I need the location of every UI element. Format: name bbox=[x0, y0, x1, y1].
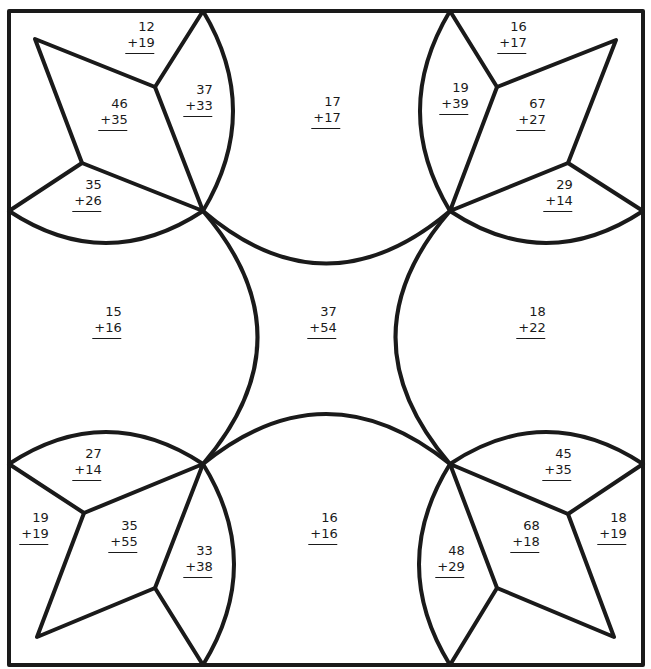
br-line-bottom bbox=[450, 588, 497, 665]
addend-2: +55 bbox=[110, 534, 137, 550]
addend-2: +54 bbox=[309, 320, 336, 336]
addend-1: 27 bbox=[74, 446, 101, 462]
answer-line bbox=[542, 480, 571, 481]
tl-line-left bbox=[9, 163, 82, 211]
problem-bl-petal-right: 33 +38 bbox=[185, 543, 212, 578]
problem-tl-petal-bottom: 35 +26 bbox=[74, 177, 101, 212]
center-arc-right bbox=[396, 211, 451, 464]
answer-line bbox=[543, 211, 572, 212]
addend-1: 16 bbox=[499, 19, 526, 35]
center-arc-top bbox=[203, 211, 450, 264]
addend-1: 33 bbox=[185, 543, 212, 559]
problem-top-center: 17 +17 bbox=[313, 94, 340, 129]
bl-line-left bbox=[9, 464, 84, 513]
addend-1: 46 bbox=[100, 96, 127, 112]
problem-bl-kite: 35 +55 bbox=[110, 518, 137, 553]
addend-2: +18 bbox=[512, 534, 539, 550]
answer-line bbox=[125, 53, 154, 54]
addend-2: +16 bbox=[310, 526, 337, 542]
answer-line bbox=[307, 338, 336, 339]
addend-1: 37 bbox=[309, 304, 336, 320]
addend-2: +35 bbox=[544, 462, 571, 478]
tr-line-right bbox=[568, 163, 643, 211]
addend-2: +19 bbox=[127, 35, 154, 51]
answer-line bbox=[98, 130, 127, 131]
tl-line-top bbox=[155, 11, 203, 87]
answer-line bbox=[108, 552, 137, 553]
answer-line bbox=[435, 577, 464, 578]
answer-line bbox=[72, 211, 101, 212]
tl-petal-bottom-arc bbox=[9, 211, 203, 243]
addend-2: +17 bbox=[499, 35, 526, 51]
addend-2: +39 bbox=[441, 96, 468, 112]
answer-line bbox=[308, 544, 337, 545]
problem-br-petal-left: 48 +29 bbox=[437, 543, 464, 578]
center-arc-bottom bbox=[203, 414, 450, 464]
problem-bl-petal-top: 27 +14 bbox=[74, 446, 101, 481]
problem-tr-top: 16 +17 bbox=[499, 19, 526, 54]
addend-2: +38 bbox=[185, 559, 212, 575]
answer-line bbox=[439, 114, 468, 115]
addend-1: 29 bbox=[545, 177, 572, 193]
answer-line bbox=[72, 480, 101, 481]
addend-2: +14 bbox=[545, 193, 572, 209]
addend-1: 16 bbox=[310, 510, 337, 526]
answer-line bbox=[497, 53, 526, 54]
addend-2: +33 bbox=[185, 98, 212, 114]
problem-bl-side: 19 +19 bbox=[21, 510, 48, 545]
problem-tr-kite: 67 +27 bbox=[518, 96, 545, 131]
center-arc-left bbox=[203, 211, 258, 464]
addend-1: 19 bbox=[441, 80, 468, 96]
problem-tl-petal-right: 37 +33 bbox=[185, 82, 212, 117]
addend-2: +14 bbox=[74, 462, 101, 478]
addend-2: +26 bbox=[74, 193, 101, 209]
problem-right-center: 18 +22 bbox=[518, 304, 545, 339]
addend-1: 68 bbox=[512, 518, 539, 534]
problem-tr-petal-left: 19 +39 bbox=[441, 80, 468, 115]
addend-1: 19 bbox=[21, 510, 48, 526]
problem-tl-top: 12 +19 bbox=[127, 19, 154, 54]
addend-2: +17 bbox=[313, 110, 340, 126]
addend-1: 35 bbox=[74, 177, 101, 193]
problem-center: 37 +54 bbox=[309, 304, 336, 339]
bl-line-bottom bbox=[155, 588, 203, 665]
problem-tl-kite: 46 +35 bbox=[100, 96, 127, 131]
addend-1: 37 bbox=[185, 82, 212, 98]
worksheet: 12 +19 46 +35 37 +33 35 +26 17 +17 19 +3… bbox=[0, 0, 651, 669]
addend-2: +16 bbox=[94, 320, 121, 336]
answer-line bbox=[597, 544, 626, 545]
addend-2: +19 bbox=[599, 526, 626, 542]
problem-br-side: 18 +19 bbox=[599, 510, 626, 545]
addend-1: 12 bbox=[127, 19, 154, 35]
br-line-right bbox=[568, 464, 643, 514]
addend-2: +22 bbox=[518, 320, 545, 336]
addend-1: 17 bbox=[313, 94, 340, 110]
tr-line-top bbox=[450, 11, 497, 87]
problem-tr-petal-bottom: 29 +14 bbox=[545, 177, 572, 212]
answer-line bbox=[183, 577, 212, 578]
addend-2: +19 bbox=[21, 526, 48, 542]
addend-1: 45 bbox=[544, 446, 571, 462]
answer-line bbox=[19, 544, 48, 545]
problem-left-center: 15 +16 bbox=[94, 304, 121, 339]
problem-br-kite: 68 +18 bbox=[512, 518, 539, 553]
addend-1: 48 bbox=[437, 543, 464, 559]
addend-2: +29 bbox=[437, 559, 464, 575]
addend-2: +35 bbox=[100, 112, 127, 128]
addend-1: 67 bbox=[518, 96, 545, 112]
addend-1: 18 bbox=[518, 304, 545, 320]
answer-line bbox=[183, 116, 212, 117]
bl-petal-top-arc bbox=[9, 432, 203, 464]
addend-1: 35 bbox=[110, 518, 137, 534]
answer-line bbox=[510, 552, 539, 553]
addend-1: 15 bbox=[94, 304, 121, 320]
answer-line bbox=[311, 128, 340, 129]
problem-bottom-center: 16 +16 bbox=[310, 510, 337, 545]
tr-petal-bottom-arc bbox=[450, 211, 643, 243]
addend-2: +27 bbox=[518, 112, 545, 128]
answer-line bbox=[92, 338, 121, 339]
problem-br-petal-top: 45 +35 bbox=[544, 446, 571, 481]
answer-line bbox=[516, 338, 545, 339]
addend-1: 18 bbox=[599, 510, 626, 526]
answer-line bbox=[516, 130, 545, 131]
